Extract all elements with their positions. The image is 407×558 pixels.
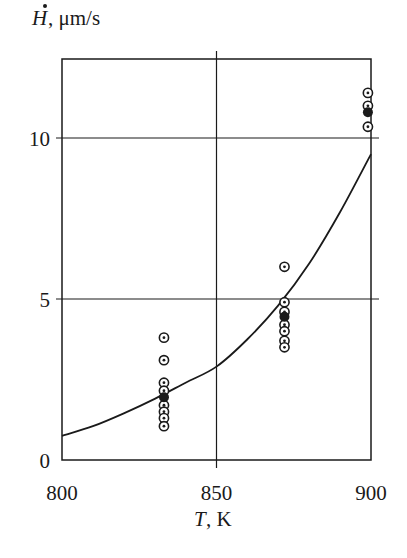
filled-circle-marker	[279, 312, 289, 322]
grid-lines	[56, 51, 379, 468]
y-axis-variable: H	[31, 6, 49, 30]
dot-accent	[43, 4, 47, 8]
y-axis-title: H , μm/s	[31, 4, 100, 30]
x-axis-title: T , K	[194, 507, 232, 531]
open-circle-marker	[280, 262, 289, 271]
open-circle-marker	[159, 422, 168, 431]
chart: 800850900 0510 H , μm/s T , K	[0, 0, 407, 558]
y-tick-labels: 0510	[29, 127, 50, 473]
x-tick-label: 900	[355, 481, 387, 505]
open-circle-marker	[363, 122, 372, 131]
open-circle-marker	[363, 88, 372, 97]
open-circle-marker	[159, 356, 168, 365]
x-tick-label: 850	[201, 481, 233, 505]
x-tick-label: 800	[46, 481, 78, 505]
y-tick-label: 5	[40, 288, 51, 312]
open-circle-marker	[280, 343, 289, 352]
open-circle-marker	[280, 327, 289, 336]
open-circle-marker	[280, 298, 289, 307]
open-circle-marker	[159, 333, 168, 342]
y-axis-unit: , μm/s	[48, 6, 100, 30]
filled-circle-marker	[159, 392, 169, 402]
x-tick-labels: 800850900	[46, 481, 387, 505]
y-tick-label: 0	[40, 449, 51, 473]
filled-circle-marker	[363, 107, 373, 117]
y-tick-label: 10	[29, 127, 50, 151]
x-axis-unit: , K	[206, 507, 232, 531]
